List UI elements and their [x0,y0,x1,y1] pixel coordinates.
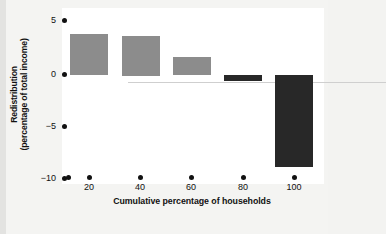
y-tick-0: 0 [30,68,68,80]
x-tick-60: 60 [176,175,206,192]
page-gutter [0,0,6,234]
x-tick-dot-icon [87,175,92,180]
x-tick-label: 40 [125,182,155,192]
x-tick-20: 20 [74,175,104,192]
y-tick-label: −5 [46,120,56,132]
y-tick-label: −10 [41,172,56,184]
y-tick-label: 5 [51,14,56,26]
x-tick-80: 80 [228,175,258,192]
x-tick-label: 80 [228,182,258,192]
bar-100 [275,75,313,167]
y-axis-title-line1: Redistribution [9,66,19,123]
y-tick-minus10: −10 [30,172,68,184]
y-tick-dot-icon [62,18,67,23]
x-tick-dot-icon [241,175,246,180]
x-axis-origin-dot-icon [66,175,71,180]
bar-80 [224,75,262,81]
x-tick-label: 20 [74,182,104,192]
bar-40 [122,36,160,76]
x-tick-label: 100 [279,182,309,192]
plot-area [62,8,324,184]
y-axis-title: Redistribution (percentage of total inco… [9,14,30,174]
y-tick-minus5: −5 [30,120,68,132]
x-tick-dot-icon [189,175,194,180]
y-axis-title-line2: (percentage of total income) [19,38,29,150]
y-tick-5: 5 [30,14,68,26]
bar-20 [70,34,108,76]
y-tick-label: 0 [51,68,56,80]
y-tick-dot-icon [62,72,67,77]
x-tick-100: 100 [279,175,309,192]
x-tick-40: 40 [125,175,155,192]
x-axis-title: Cumulative percentage of households [60,196,324,206]
x-tick-label: 60 [176,182,206,192]
x-tick-dot-icon [292,175,297,180]
zero-baseline [128,82,386,83]
x-tick-dot-icon [138,175,143,180]
bar-60 [173,57,211,76]
y-tick-dot-icon [62,124,67,129]
